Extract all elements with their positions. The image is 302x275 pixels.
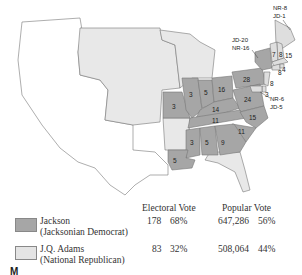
svg-text:3: 3: [189, 91, 193, 98]
svg-text:15: 15: [285, 52, 293, 59]
state-maryland: [250, 86, 262, 92]
legend-row-adams: J.Q. Adams (National Republican) 83 32% …: [0, 244, 302, 272]
popular-votes: 508,064: [218, 244, 249, 254]
popular-pct: 56%: [258, 216, 275, 226]
electoral-vote-header: Electoral Vote: [142, 203, 196, 213]
candidate-party: (Jacksonian Democrat): [40, 227, 128, 238]
svg-text:24: 24: [244, 96, 252, 103]
svg-text:14: 14: [212, 106, 220, 113]
caption-partial: M: [10, 266, 18, 275]
svg-text:8: 8: [279, 51, 283, 58]
svg-text:JD-5: JD-5: [270, 104, 283, 110]
svg-text:5: 5: [204, 89, 208, 96]
svg-text:3: 3: [172, 103, 176, 110]
electoral-votes: 83: [152, 244, 162, 254]
svg-text:8: 8: [270, 80, 274, 87]
svg-text:9: 9: [221, 139, 225, 146]
electoral-pct: 68%: [170, 216, 187, 226]
svg-text:4: 4: [282, 66, 286, 73]
legend: Electoral Vote Popular Vote Jackson (Jac…: [0, 203, 302, 275]
svg-text:7: 7: [272, 51, 276, 58]
candidate-party: (National Republican): [40, 255, 125, 266]
jackson-swatch: [15, 218, 37, 232]
svg-text:NR-16: NR-16: [232, 45, 250, 51]
svg-text:5: 5: [173, 157, 177, 164]
svg-text:28: 28: [243, 76, 251, 83]
svg-text:NR-6: NR-6: [270, 96, 285, 102]
svg-text:3: 3: [190, 139, 194, 146]
svg-text:8: 8: [278, 69, 282, 76]
electoral-votes: 178: [147, 216, 161, 226]
svg-text:16: 16: [218, 86, 226, 93]
adams-swatch: [15, 246, 37, 260]
popular-pct: 44%: [258, 244, 275, 254]
state-alabama: [200, 126, 218, 155]
svg-text:NR-8: NR-8: [273, 5, 288, 11]
svg-text:11: 11: [238, 128, 245, 135]
election-map: 3 3 5 16 28 14 24 11 15 11 3 5 9 5 7 8 1…: [0, 0, 302, 200]
candidate-name: Jackson: [40, 216, 128, 227]
svg-text:JD-1: JD-1: [273, 13, 286, 19]
territory-florida: [205, 152, 250, 192]
svg-text:5: 5: [205, 139, 209, 146]
legend-row-jackson: Jackson (Jacksonian Democrat) 178 68% 64…: [0, 216, 302, 244]
electoral-pct: 32%: [170, 244, 187, 254]
state-new-york: [255, 48, 272, 70]
svg-text:15: 15: [249, 114, 257, 121]
candidate-name: J.Q. Adams: [40, 244, 125, 255]
popular-votes: 647,286: [218, 216, 249, 226]
svg-text:11: 11: [212, 117, 219, 124]
popular-vote-header: Popular Vote: [222, 203, 271, 213]
svg-text:JD-20: JD-20: [232, 37, 249, 43]
